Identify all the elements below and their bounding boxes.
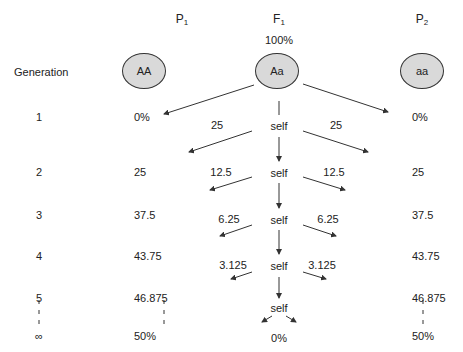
p2-value-gen4: 43.75 <box>412 250 440 262</box>
branch-left-3: 6.25 <box>218 213 239 225</box>
self-label-5: self <box>270 302 287 314</box>
branch-right-3: 6.25 <box>317 213 338 225</box>
p2-value-gen2: 25 <box>412 166 424 178</box>
self-label-1: self <box>270 120 287 132</box>
p1-value-gen2: 25 <box>134 166 146 178</box>
generation-infinity: ∞ <box>35 330 43 342</box>
p1-value-infinity: 50% <box>134 330 156 342</box>
p1-value-gen3: 37.5 <box>134 209 155 221</box>
self-label-2: self <box>270 167 287 179</box>
branch-right-2: 12.5 <box>323 166 344 178</box>
generation-5: 5 <box>36 292 42 304</box>
generation-3: 3 <box>36 209 42 221</box>
p2-value-infinity: 50% <box>412 330 434 342</box>
p1-value-gen1: 0% <box>134 111 150 123</box>
generation-1: 1 <box>36 111 42 123</box>
generation-2: 2 <box>36 166 42 178</box>
branch-right-1: 25 <box>330 119 342 131</box>
self-label-4: self <box>270 260 287 272</box>
p2-value-gen1: 0% <box>412 111 428 123</box>
center-final-percent: 0% <box>271 332 287 344</box>
branch-left-1: 25 <box>211 119 223 131</box>
p2-value-gen5: 46.875 <box>412 292 446 304</box>
generation-4: 4 <box>36 250 42 262</box>
branch-left-2: 12.5 <box>210 166 231 178</box>
self-label-3: self <box>270 214 287 226</box>
p2-value-gen3: 37.5 <box>412 209 433 221</box>
p1-value-gen4: 43.75 <box>134 250 162 262</box>
branch-left-4: 3.125 <box>219 259 247 271</box>
branch-right-4: 3.125 <box>308 259 336 271</box>
p1-value-gen5: 46.875 <box>134 292 168 304</box>
